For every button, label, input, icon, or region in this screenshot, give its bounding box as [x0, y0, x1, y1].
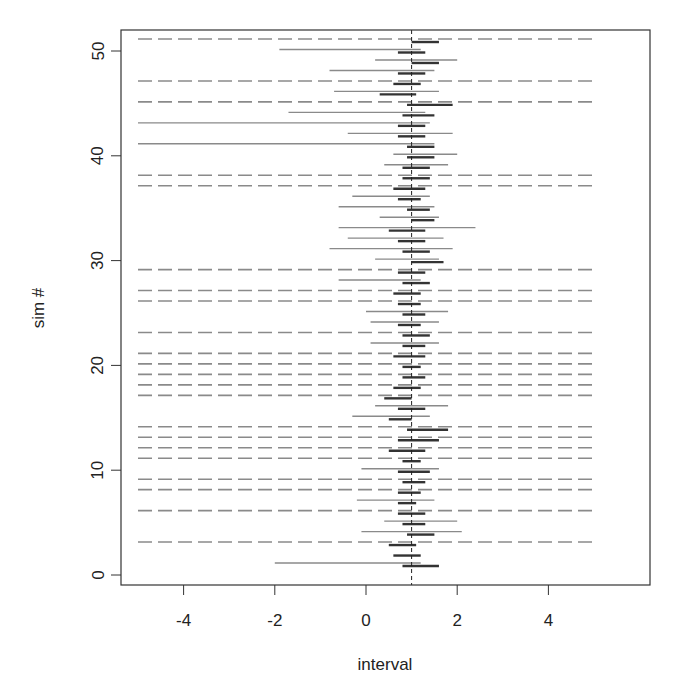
x-tick-label: 4 [544, 611, 553, 630]
x-tick-label: 2 [452, 611, 461, 630]
plot-area [138, 30, 594, 585]
y-tick-label: 30 [89, 251, 108, 270]
x-axis: -4-2024 [176, 585, 553, 630]
interval-chart: -4-2024 01020304050 interval sim # [0, 0, 680, 693]
x-tick-label: 0 [361, 611, 370, 630]
x-tick-label: -2 [267, 611, 282, 630]
y-tick-label: 50 [89, 42, 108, 61]
y-tick-label: 40 [89, 146, 108, 165]
x-axis-title: interval [358, 655, 413, 674]
x-tick-label: -4 [176, 611, 191, 630]
y-axis: 01020304050 [89, 42, 122, 580]
plot-frame [121, 30, 650, 585]
y-tick-label: 20 [89, 356, 108, 375]
y-axis-title: sim # [29, 287, 48, 328]
y-tick-label: 10 [89, 461, 108, 480]
y-tick-label: 0 [89, 570, 108, 579]
